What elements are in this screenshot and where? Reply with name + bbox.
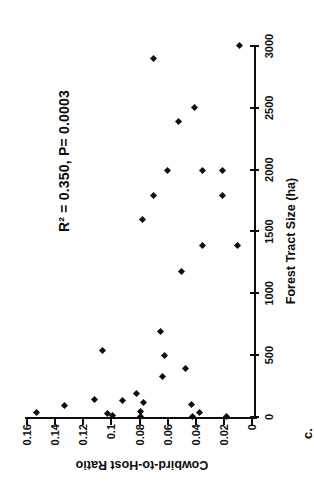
data-point bbox=[150, 191, 157, 198]
data-point bbox=[139, 216, 146, 223]
y-tick-label: 0.04 bbox=[190, 424, 202, 463]
y-tick-label: 0.12 bbox=[77, 424, 89, 463]
data-point bbox=[158, 373, 165, 380]
x-tick-label: 1500 bbox=[263, 210, 275, 254]
y-tick-label: 0.16 bbox=[21, 424, 33, 463]
data-point bbox=[150, 55, 157, 62]
data-point bbox=[234, 242, 241, 249]
data-point bbox=[196, 409, 203, 416]
data-point bbox=[161, 352, 168, 359]
data-point bbox=[33, 409, 40, 416]
x-tick-label: 2500 bbox=[263, 86, 275, 130]
x-tick-label: 500 bbox=[263, 333, 275, 377]
data-point bbox=[140, 399, 147, 406]
x-axis-title: Forest Tract Size (ha) bbox=[284, 141, 298, 341]
x-tick-label: 3000 bbox=[263, 24, 275, 68]
data-point bbox=[188, 400, 195, 407]
data-point bbox=[219, 191, 226, 198]
data-point bbox=[219, 167, 226, 174]
data-point bbox=[178, 268, 185, 275]
y-tick-label: 0.06 bbox=[162, 424, 174, 463]
data-point bbox=[164, 167, 171, 174]
x-tick-label: 1000 bbox=[263, 271, 275, 315]
data-point bbox=[91, 396, 98, 403]
data-point bbox=[133, 390, 140, 397]
x-axis-tick bbox=[250, 231, 259, 233]
data-point bbox=[182, 365, 189, 372]
x-axis-tick bbox=[250, 45, 259, 47]
y-tick-label: 0 bbox=[246, 424, 258, 463]
y-tick-label: 0.02 bbox=[218, 424, 230, 463]
data-point bbox=[157, 328, 164, 335]
data-point bbox=[199, 167, 206, 174]
data-point bbox=[199, 242, 206, 249]
scanned-figure-page: R² = 0.350, P= 0.0003 Forest Tract Size … bbox=[0, 0, 314, 501]
panel-label: c. bbox=[300, 428, 314, 439]
y-tick-label: 0.08 bbox=[134, 424, 146, 463]
x-axis-tick bbox=[250, 169, 259, 171]
data-point bbox=[175, 118, 182, 125]
x-tick-label: 2000 bbox=[263, 148, 275, 192]
regression-stats-annotation: R² = 0.350, P= 0.0003 bbox=[56, 50, 72, 272]
data-point bbox=[191, 104, 198, 111]
data-point bbox=[99, 347, 106, 354]
y-tick-label: 0.1 bbox=[105, 424, 117, 463]
x-tick-label: 0 bbox=[263, 395, 275, 439]
y-tick-label: 0.14 bbox=[49, 424, 61, 463]
data-point bbox=[61, 402, 68, 409]
x-axis-tick bbox=[250, 107, 259, 109]
rotated-scatter-figure: R² = 0.350, P= 0.0003 Forest Tract Size … bbox=[0, 0, 314, 501]
x-axis-tick bbox=[250, 292, 259, 294]
data-point bbox=[236, 42, 243, 49]
x-axis-tick bbox=[250, 354, 259, 356]
data-point bbox=[119, 397, 126, 404]
